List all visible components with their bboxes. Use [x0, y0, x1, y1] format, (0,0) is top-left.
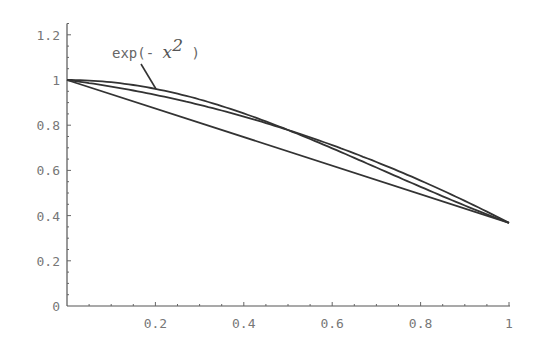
y-tick-label: 0.6 [37, 163, 60, 178]
y-tick-label: 0.8 [37, 118, 60, 133]
annotation-var: x [163, 42, 173, 62]
x-tick-label: 0.8 [409, 316, 432, 331]
series-line [67, 80, 509, 223]
chart: 0.20.40.60.8100.20.40.60.811.2 exp(- x2 … [0, 0, 549, 344]
x-tick-label: 0.2 [144, 316, 167, 331]
svg-text:exp(- x2 ): exp(- x2 ) [112, 35, 200, 62]
plot-area [67, 80, 509, 223]
annotation-suffix: ) [183, 45, 200, 61]
y-tick-label: 0.4 [37, 209, 61, 224]
y-tick-label: 1.2 [37, 28, 60, 43]
x-tick-label: 1 [505, 316, 513, 331]
y-tick-label: 0 [52, 299, 60, 314]
y-tick-label: 1 [52, 73, 60, 88]
axes: 0.20.40.60.8100.20.40.60.811.2 [37, 24, 513, 332]
annotation: exp(- x2 ) [112, 35, 200, 89]
annotation-pointer [141, 64, 156, 89]
x-tick-label: 0.4 [232, 316, 256, 331]
annotation-prefix: exp(- [112, 45, 163, 61]
x-tick-label: 0.6 [320, 316, 343, 331]
y-tick-label: 0.2 [37, 254, 60, 269]
annotation-exponent: 2 [171, 35, 183, 55]
